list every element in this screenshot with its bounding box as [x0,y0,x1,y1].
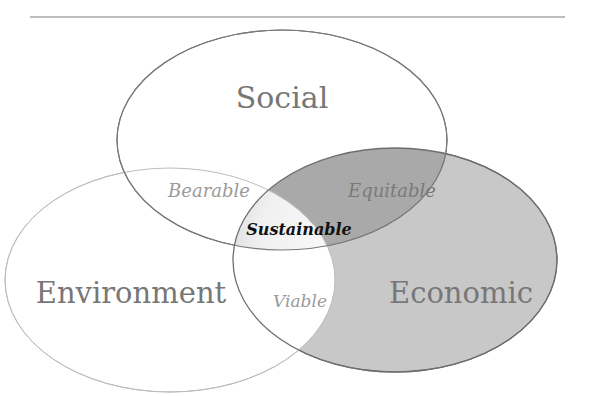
equitable-label: Equitable [347,180,436,201]
viable-label: Viable [273,291,327,311]
sustainable-label: Sustainable [246,220,351,239]
venn-diagram: Social Environment Economic Bearable Equ… [0,0,599,396]
environment-label: Environment [36,276,227,310]
economic-label: Economic [389,276,533,310]
bearable-label: Bearable [167,180,250,201]
social-label: Social [236,80,329,115]
